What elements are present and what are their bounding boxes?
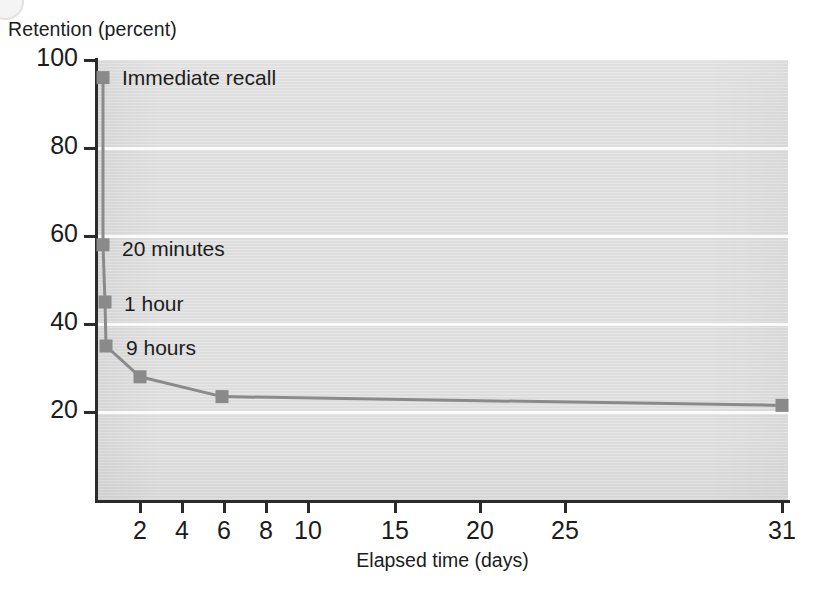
x-tick-label-20: 20 xyxy=(466,516,494,545)
plot-paper-texture xyxy=(97,60,788,501)
x-tick-label-6: 6 xyxy=(217,516,231,545)
x-tick-31 xyxy=(781,502,784,513)
gridline-40 xyxy=(97,323,788,326)
x-tick-label-15: 15 xyxy=(381,516,409,545)
x-tick-2 xyxy=(139,502,142,513)
x-tick-4 xyxy=(181,502,184,513)
x-tick-20 xyxy=(479,502,482,513)
x-tick-25 xyxy=(564,502,567,513)
x-tick-label-2: 2 xyxy=(133,516,147,545)
x-tick-8 xyxy=(265,502,268,513)
retention-line-chart: Retention (percent) 10080604020 24681015… xyxy=(0,0,819,595)
y-tick-80 xyxy=(84,147,95,150)
plot-area xyxy=(97,60,788,501)
x-tick-label-31: 31 xyxy=(768,516,796,545)
plot-vignette xyxy=(97,60,788,501)
x-axis-title: Elapsed time (days) xyxy=(97,549,788,572)
x-tick-10 xyxy=(307,502,310,513)
y-tick-label-80: 80 xyxy=(0,131,78,160)
x-tick-15 xyxy=(394,502,397,513)
annotation-label-3: 9 hours xyxy=(126,336,196,360)
y-tick-100 xyxy=(84,59,95,62)
y-tick-label-60: 60 xyxy=(0,219,78,248)
x-tick-label-10: 10 xyxy=(294,516,322,545)
gridline-20 xyxy=(97,411,788,414)
y-axis-title: Retention (percent) xyxy=(8,18,177,41)
annotation-label-1: 20 minutes xyxy=(122,237,225,261)
y-tick-60 xyxy=(84,235,95,238)
y-tick-20 xyxy=(84,411,95,414)
y-tick-40 xyxy=(84,323,95,326)
x-tick-6 xyxy=(223,502,226,513)
x-tick-label-4: 4 xyxy=(175,516,189,545)
y-tick-label-40: 40 xyxy=(0,307,78,336)
x-axis-line xyxy=(95,500,790,503)
annotation-label-0: Immediate recall xyxy=(122,66,276,90)
annotation-label-2: 1 hour xyxy=(124,292,184,316)
y-axis-line xyxy=(95,58,98,503)
x-tick-label-8: 8 xyxy=(259,516,273,545)
y-tick-label-100: 100 xyxy=(0,43,78,72)
gridline-80 xyxy=(97,147,788,150)
x-tick-label-25: 25 xyxy=(551,516,579,545)
y-tick-label-20: 20 xyxy=(0,395,78,424)
